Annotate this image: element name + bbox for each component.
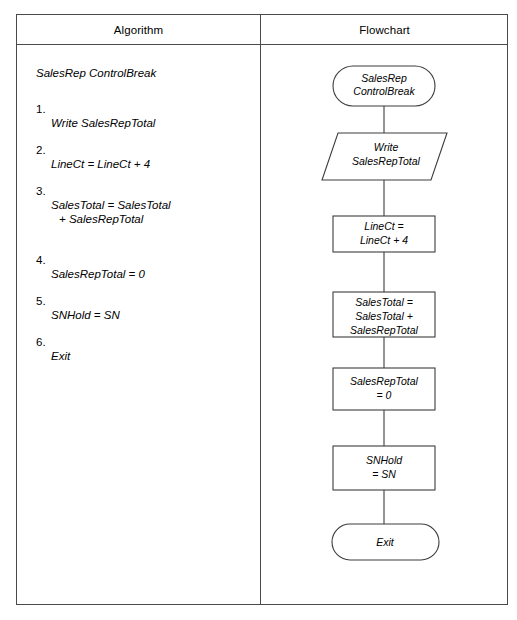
algorithm-step-text: LineCt = LineCt + 4 [51, 143, 150, 171]
node-label-line: SalesRep [361, 72, 407, 84]
algorithm-step-number: 1. [36, 102, 51, 116]
node-label-line: SalesTotal = [355, 296, 413, 308]
node-label-line: SalesRepTotal [350, 324, 419, 336]
flowchart-node-linect-process: LineCt = LineCt + 4 [333, 216, 435, 252]
algorithm-step-text-main: Exit [51, 350, 70, 362]
node-label-line: = SN [372, 468, 396, 480]
figure-root: Algorithm Flowchart SalesRep ControlBrea… [0, 0, 517, 620]
algorithm-step-text: SalesTotal = SalesTotal + SalesRepTotal [51, 184, 171, 240]
node-label-line: LineCt = [364, 220, 403, 232]
algorithm-step-number: 2. [36, 143, 51, 157]
node-label-line: SalesTotal + [355, 310, 413, 322]
list-item: 2. LineCt = LineCt + 4 [36, 143, 251, 171]
algorithm-step-list: 1. Write SalesRepTotal 2. LineCt = LineC… [36, 102, 251, 376]
list-item: 3. SalesTotal = SalesTotal + SalesRepTot… [36, 184, 251, 240]
flowchart-node-salesreptotal-process: SalesRepTotal = 0 [333, 368, 435, 410]
algorithm-title: SalesRep ControlBreak [36, 67, 156, 79]
node-label-line: = 0 [377, 389, 392, 401]
list-item: 1. Write SalesRepTotal [36, 102, 251, 130]
algorithm-step-text-main: SalesTotal = SalesTotal [51, 199, 171, 211]
algorithm-step-text: SalesRepTotal = 0 [51, 253, 145, 281]
node-label-line: SalesRepTotal [352, 155, 421, 167]
flowchart-node-salestotal-process: SalesTotal = SalesTotal + SalesRepTotal [333, 292, 435, 337]
algorithm-step-text: SNHold = SN [51, 294, 120, 322]
column-header-flowchart-label: Flowchart [359, 24, 410, 36]
node-label-line: SNHold [366, 454, 403, 466]
list-item: 5. SNHold = SN [36, 294, 251, 322]
column-header-algorithm: Algorithm [17, 14, 260, 45]
algorithm-step-number: 5. [36, 294, 51, 308]
node-label-line: SalesRepTotal [350, 375, 419, 387]
column-header-flowchart: Flowchart [261, 14, 508, 45]
list-item: 6. Exit [36, 335, 251, 363]
flowchart-node-start-terminator: SalesRep ControlBreak [333, 66, 435, 106]
node-label-line: LineCt + 4 [360, 234, 408, 246]
node-label-line: ControlBreak [353, 85, 415, 97]
algorithm-step-number: 3. [36, 184, 51, 198]
flowchart-node-exit-terminator: Exit [332, 524, 439, 560]
algorithm-step-text: Write SalesRepTotal [51, 102, 155, 130]
algorithm-step-text-main: SNHold = SN [51, 309, 120, 321]
algorithm-step-text-main: SalesRepTotal = 0 [51, 268, 145, 280]
column-header-algorithm-label: Algorithm [114, 24, 163, 36]
flowchart-diagram: SalesRep ControlBreak Write SalesRepTota… [261, 45, 508, 604]
node-label-line: Write [374, 141, 399, 153]
algorithm-column: SalesRep ControlBreak 1. Write SalesRepT… [17, 45, 260, 604]
flowchart-column: SalesRep ControlBreak Write SalesRepTota… [261, 45, 508, 604]
algorithm-step-text-main: LineCt = LineCt + 4 [51, 158, 150, 170]
algorithm-step-number: 6. [36, 335, 51, 349]
algorithm-step-number: 4. [36, 253, 51, 267]
flowchart-node-write-io: Write SalesRepTotal [322, 133, 447, 180]
algorithm-step-text: Exit [51, 335, 70, 363]
flowchart-node-snhold-process: SNHold = SN [333, 446, 435, 490]
algorithm-step-text-continuation: + SalesRepTotal [51, 212, 171, 226]
list-item: 4. SalesRepTotal = 0 [36, 253, 251, 281]
algorithm-step-text-main: Write SalesRepTotal [51, 117, 155, 129]
node-label-line: Exit [376, 536, 395, 548]
